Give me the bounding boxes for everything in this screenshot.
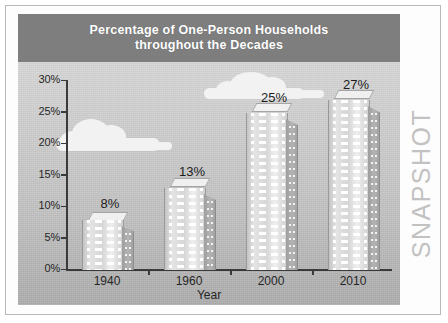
bar-1960[interactable] [164,178,220,270]
chart-title-line-1: Percentage of One-Person Households [90,23,329,38]
snapshot-watermark: SNAPSHOT [402,62,442,305]
bar-2010-face [328,100,370,270]
x-tick-3 [312,270,314,275]
x-tick-1 [148,270,150,275]
cloud-icon-left [56,119,172,153]
bar-1960-roof [170,178,211,187]
bar-2000-face [246,113,288,270]
bar-1940-side [122,226,134,270]
bar-label-2000: 25% [244,90,304,105]
bar-2010[interactable] [328,90,384,270]
y-tick-label-0: 0% [22,262,60,274]
x-tick-label-1960: 1960 [159,274,219,288]
x-tick-2 [230,270,232,275]
bar-1940[interactable] [82,212,138,270]
y-axis-line [66,80,68,270]
bar-2000[interactable] [246,103,302,270]
bar-1960-face [164,188,206,270]
snapshot-watermark-text: SNAPSHOT [408,109,437,259]
y-tick-label-25: 25% [22,105,60,117]
chart-title: Percentage of One-Person Households thro… [90,23,329,53]
y-tick-label-5: 5% [22,231,60,243]
y-tick-label-15: 15% [22,168,60,180]
x-tick-label-2000: 2000 [241,274,301,288]
bar-label-1960: 13% [162,164,222,179]
y-tick-label-20: 20% [22,136,60,148]
y-tick-label-10: 10% [22,199,60,211]
plot-area: 0% 5% 10% 15% 20% 25% 30% 1940 1960 2000… [18,62,400,305]
bar-1960-side [204,194,216,270]
bar-2000-side [286,119,298,270]
bar-label-2010: 27% [326,77,386,92]
chart-title-line-2: throughout the Decades [90,38,329,53]
x-tick-label-2010: 2010 [323,274,383,288]
bar-1940-face [82,220,124,270]
snapshot-chart-figure: Percentage of One-Person Households thro… [0,0,448,323]
chart-title-banner: Percentage of One-Person Households thro… [18,14,400,62]
bar-2010-side [368,106,380,270]
bar-label-1940: 8% [80,196,140,211]
x-axis-title: Year [18,288,400,302]
y-tick-label-30: 30% [22,73,60,85]
x-tick-label-1940: 1940 [77,274,137,288]
